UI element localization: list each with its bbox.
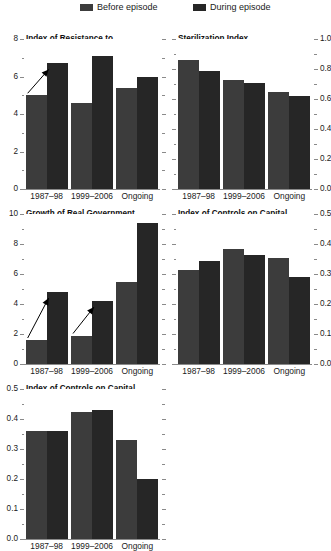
- x-axis-label: 1999–2006: [221, 367, 266, 376]
- x-axis-label: 1987–98: [24, 542, 69, 551]
- y-tick-minor: [22, 58, 25, 59]
- y-tick-label: 10: [0, 210, 18, 218]
- y-tick-major: [314, 364, 318, 365]
- y-tick-mirror: [174, 289, 177, 290]
- y-tick-mirror: [162, 509, 166, 510]
- y-tick-label: 2: [0, 148, 18, 156]
- legend-label-before: Before episode: [97, 3, 158, 12]
- y-tick-label: 0.1: [0, 505, 18, 513]
- y-tick-mirror: [172, 304, 176, 305]
- y-tick-mirror: [162, 404, 165, 405]
- bar: [116, 440, 137, 539]
- y-tick-minor: [314, 229, 317, 230]
- y-tick-label: 0.2: [320, 300, 331, 308]
- plot-area: [24, 214, 160, 364]
- y-tick-major: [20, 509, 24, 510]
- y-tick-major: [20, 189, 24, 190]
- y-tick-major: [314, 39, 318, 40]
- y-tick-mirror: [162, 449, 166, 450]
- y-tick-mirror: [172, 364, 176, 365]
- y-tick-minor: [314, 289, 317, 290]
- y-tick-mirror: [172, 69, 176, 70]
- legend-entry-during: During episode: [193, 3, 271, 12]
- x-axis-label: Ongoing: [115, 542, 160, 551]
- increase-arrow-icon: [24, 39, 160, 189]
- y-tick-major: [20, 244, 24, 245]
- plot-area: [24, 389, 160, 539]
- bar: [47, 431, 68, 539]
- y-tick-mirror: [162, 539, 166, 540]
- y-tick-label: 0.2: [0, 475, 18, 483]
- y-tick-minor: [314, 84, 317, 85]
- y-tick-label: 0.5: [320, 210, 331, 218]
- y-tick-minor: [314, 319, 317, 320]
- y-tick-label: 0: [0, 185, 18, 193]
- y-tick-minor: [22, 289, 25, 290]
- y-tick-label: 0.3: [320, 270, 331, 278]
- y-tick-label: 0.8: [320, 65, 331, 73]
- chart-panel-controls-outflows: Index of Controls on CapitalOutflows0.00…: [0, 384, 164, 540]
- y-tick-major: [314, 304, 318, 305]
- y-tick-minor: [22, 524, 25, 525]
- bar: [223, 249, 244, 365]
- bar: [244, 83, 265, 190]
- x-axis-label: Ongoing: [267, 367, 312, 376]
- y-tick-major: [20, 304, 24, 305]
- x-axis-label: Ongoing: [115, 367, 160, 376]
- y-tick-mirror: [174, 54, 177, 55]
- y-tick-minor: [314, 114, 317, 115]
- y-tick-minor: [22, 464, 25, 465]
- y-tick-minor: [22, 133, 25, 134]
- y-tick-mirror: [162, 389, 166, 390]
- plot-area: [24, 39, 160, 189]
- y-tick-major: [20, 77, 24, 78]
- x-axis-label: 1987–98: [176, 367, 221, 376]
- y-tick-label: 0.0: [0, 535, 18, 543]
- x-axis-label: 1999–2006: [69, 542, 114, 551]
- y-tick-label: 6: [0, 73, 18, 81]
- y-tick-major: [314, 69, 318, 70]
- y-tick-mirror: [174, 229, 177, 230]
- x-axis-line: [24, 539, 160, 540]
- bar: [92, 410, 113, 539]
- y-tick-major: [314, 334, 318, 335]
- y-tick-mirror: [174, 319, 177, 320]
- x-axis-line: [24, 364, 160, 365]
- bar: [268, 258, 289, 365]
- chart-legend: Before episode During episode: [0, 0, 328, 16]
- y-tick-major: [314, 214, 318, 215]
- y-tick-major: [20, 449, 24, 450]
- bar: [199, 261, 220, 365]
- y-tick-mirror: [172, 159, 176, 160]
- plot-area: [176, 214, 312, 364]
- y-tick-mirror: [162, 419, 166, 420]
- chart-panel-controls-inflows: Index of Controls on CapitalInflows0.00.…: [164, 209, 328, 365]
- y-tick-label: 0.4: [320, 125, 331, 133]
- y-tick-label: 8: [0, 35, 18, 43]
- y-tick-mirror: [174, 114, 177, 115]
- y-tick-minor: [314, 174, 317, 175]
- chart-panel-resistance: Index of Resistance toExchange Market Pr…: [0, 34, 164, 190]
- y-tick-major: [314, 99, 318, 100]
- y-tick-minor: [314, 349, 317, 350]
- x-axis-label: 1999–2006: [69, 367, 114, 376]
- x-axis-label: 1999–2006: [69, 192, 114, 201]
- y-tick-label: 4: [0, 300, 18, 308]
- bar: [137, 479, 158, 539]
- y-tick-label: 0.5: [0, 385, 18, 393]
- y-tick-mirror: [172, 129, 176, 130]
- y-tick-mirror: [172, 334, 176, 335]
- bar: [289, 277, 310, 364]
- y-tick-label: 4: [0, 110, 18, 118]
- y-tick-major: [20, 364, 24, 365]
- y-tick-minor: [22, 319, 25, 320]
- y-tick-mirror: [172, 189, 176, 190]
- y-tick-minor: [22, 170, 25, 171]
- y-tick-mirror: [172, 39, 176, 40]
- plot-area: [176, 39, 312, 189]
- bar: [178, 60, 199, 189]
- x-axis-label: 1987–98: [24, 367, 69, 376]
- increase-arrow-icon: [24, 214, 160, 364]
- y-tick-major: [20, 419, 24, 420]
